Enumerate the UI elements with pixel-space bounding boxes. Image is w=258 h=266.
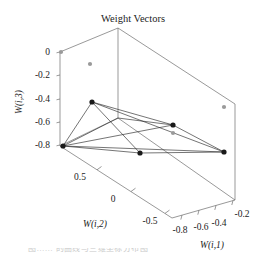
y-axis-ticks — [97, 167, 170, 214]
y-tick-1 — [131, 188, 136, 191]
data-edges — [63, 102, 224, 153]
z-axis-name: W(i,3) — [14, 90, 25, 114]
x-tick-label-2: -0.4 — [211, 218, 226, 228]
top-back-edges — [60, 28, 235, 104]
data-point-p2 — [89, 99, 94, 104]
figure-container: 0 -0.2 -0.4 -0.6 -0.8 W(i,3) 0.5 0 -0.5 … — [0, 0, 258, 266]
data-point-p1 — [60, 143, 65, 148]
z-tick-1 — [57, 75, 61, 76]
plot-title: Weight Vectors — [101, 13, 165, 24]
z-tick-label-0: 0 — [45, 47, 50, 57]
data-point-p5 — [221, 149, 226, 154]
y-tick-0 — [97, 167, 102, 170]
z-tick-4 — [57, 145, 61, 146]
x-tick-label-0: -0.8 — [172, 225, 187, 235]
gray-point-g1 — [59, 50, 63, 54]
z-tick-label-3: -0.6 — [35, 117, 50, 127]
edge-p1-back — [63, 118, 118, 146]
figure-caption: 图…… 的曲线与三维坐标分布图 — [28, 248, 148, 253]
gray-point-g2 — [88, 62, 92, 66]
y-tick-2 — [165, 210, 170, 213]
edge-p3-p5 — [140, 152, 224, 153]
x-axis-floor-line — [172, 200, 235, 218]
x-axis-ticks — [181, 201, 233, 220]
edge-p1-p2 — [63, 102, 92, 146]
z-tick-label-4: -0.8 — [35, 140, 50, 150]
data-point-p3 — [137, 150, 142, 155]
gray-point-g3 — [171, 131, 175, 135]
edge-p2-p5 — [92, 102, 224, 152]
edge-p1-p4 — [63, 125, 173, 146]
z-tick-label-1: -0.2 — [35, 70, 50, 80]
floor-back-right-edge — [118, 118, 235, 200]
gray-point-g4 — [222, 105, 226, 109]
y-axis-name: W(i,2) — [83, 219, 107, 230]
figure-caption-strip: 图…… 的曲线与三维坐标分布图 — [0, 248, 258, 266]
z-tick-3 — [57, 122, 61, 123]
y-tick-label-2: -0.5 — [142, 216, 157, 226]
weight-vectors-3d-plot: 0 -0.2 -0.4 -0.6 -0.8 W(i,3) 0.5 0 -0.5 … — [0, 0, 258, 266]
edge-p2-p4 — [92, 102, 173, 125]
edge-p1-p3 — [63, 146, 140, 153]
y-axis-floor-line — [60, 146, 172, 218]
y-tick-label-1: 0 — [111, 194, 116, 204]
edge-p4-p5 — [173, 125, 224, 152]
y-tick-label-0: 0.5 — [74, 172, 86, 182]
data-markers — [60, 99, 226, 155]
z-tick-label-2: -0.4 — [35, 94, 50, 104]
gray-markers — [59, 50, 226, 135]
x-tick-label-1: -0.6 — [193, 222, 208, 232]
edge-p1-p5 — [63, 146, 224, 152]
z-axis-ticks — [57, 52, 61, 146]
x-tick-label-3: -0.2 — [234, 209, 249, 219]
data-point-p4 — [170, 122, 175, 127]
z-tick-2 — [57, 99, 61, 100]
